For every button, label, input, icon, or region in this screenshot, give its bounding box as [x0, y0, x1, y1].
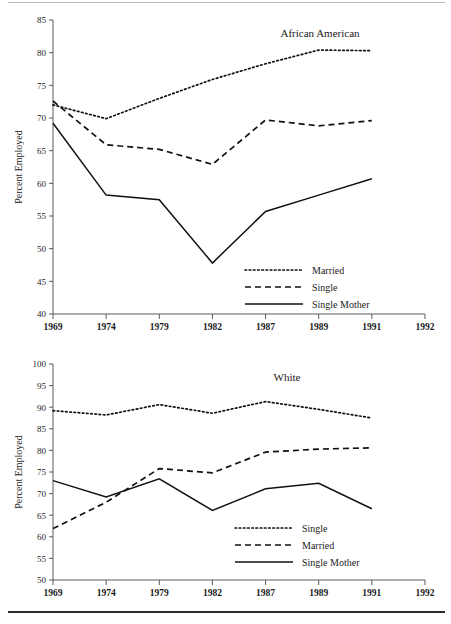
y-tick-label: 75: [37, 81, 47, 91]
legend-label-single-mother: Single Mother: [302, 557, 360, 568]
x-tick-label: 1991: [362, 322, 381, 332]
y-tick-label: 75: [37, 467, 47, 477]
series-line-married: [53, 50, 372, 119]
x-tick-label: 1987: [256, 588, 275, 598]
legend-label-single: Single: [302, 523, 328, 534]
series-line-single-mother: [53, 123, 372, 263]
series-line-married: [53, 448, 372, 529]
y-tick-label: 55: [37, 554, 47, 564]
series-line-single: [53, 402, 372, 418]
chart-title: African American: [280, 27, 360, 39]
chart-african-american: 4045505560657075808519691974197919821987…: [0, 6, 451, 342]
y-tick-label: 60: [37, 532, 47, 542]
x-tick-label: 1991: [362, 588, 381, 598]
y-tick-label: 45: [37, 277, 47, 287]
y-tick-label: 65: [37, 146, 47, 156]
y-tick-label: 50: [37, 244, 47, 254]
axis-frame: [53, 20, 425, 314]
x-tick-label: 1982: [203, 322, 222, 332]
y-tick-label: 60: [37, 179, 47, 189]
y-axis-title: Percent Employed: [13, 130, 24, 204]
legend-label-single-mother: Single Mother: [312, 299, 370, 310]
legend-label-married: Married: [302, 540, 334, 551]
y-tick-label: 65: [37, 511, 47, 521]
y-tick-label: 85: [37, 15, 47, 25]
x-tick-label: 1987: [256, 322, 275, 332]
chart-title: White: [274, 371, 301, 383]
x-tick-label: 1992: [416, 588, 435, 598]
y-tick-label: 55: [37, 211, 47, 221]
chart-white: 5055606570758085909510019691974197919821…: [0, 350, 451, 608]
chart-svg-african-american: 4045505560657075808519691974197919821987…: [0, 6, 451, 342]
x-tick-label: 1979: [150, 322, 169, 332]
x-tick-label: 1982: [203, 588, 222, 598]
chart-svg-white: 5055606570758085909510019691974197919821…: [0, 350, 451, 608]
y-tick-label: 50: [37, 575, 47, 585]
y-tick-label: 80: [37, 446, 47, 456]
legend-label-single: Single: [312, 282, 338, 293]
x-tick-label: 1974: [97, 588, 116, 598]
axis-frame: [53, 364, 425, 580]
y-tick-label: 95: [37, 381, 47, 391]
y-tick-label: 80: [37, 48, 47, 58]
y-tick-label: 40: [37, 309, 47, 319]
x-tick-label: 1969: [44, 588, 63, 598]
y-tick-label: 85: [37, 424, 47, 434]
x-tick-label: 1974: [97, 322, 116, 332]
x-tick-label: 1992: [416, 322, 435, 332]
top-rule: [8, 2, 445, 3]
legend-label-married: Married: [312, 265, 344, 276]
y-tick-label: 100: [33, 359, 47, 369]
y-tick-label: 70: [37, 489, 47, 499]
y-tick-label: 90: [37, 403, 47, 413]
series-line-single: [53, 101, 372, 164]
x-tick-label: 1989: [309, 588, 328, 598]
bottom-rule: [8, 611, 445, 613]
x-tick-label: 1979: [150, 588, 169, 598]
x-tick-label: 1989: [309, 322, 328, 332]
y-axis-title: Percent Employed: [13, 435, 24, 509]
figure-page: 4045505560657075808519691974197919821987…: [0, 0, 451, 624]
x-tick-label: 1969: [44, 322, 63, 332]
y-tick-label: 70: [37, 113, 47, 123]
